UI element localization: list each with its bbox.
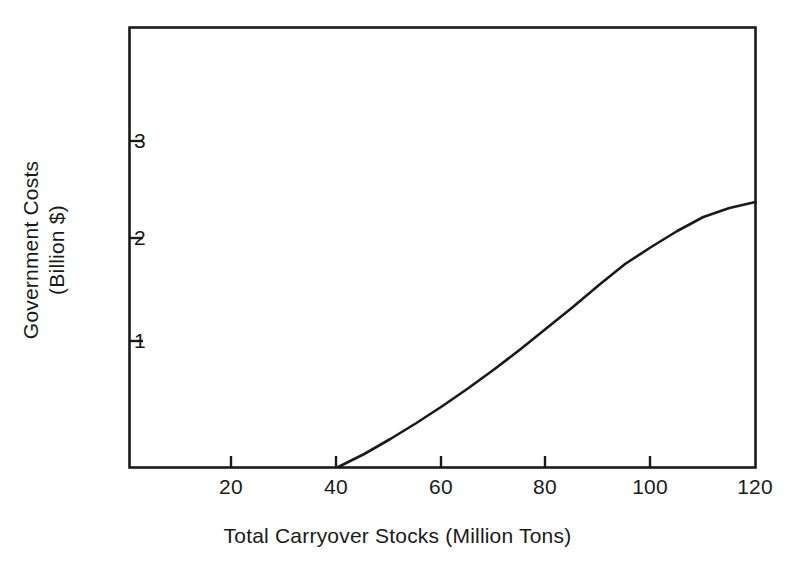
y-tick-label-1: 1 (134, 329, 146, 353)
plot-area-svg (0, 0, 795, 578)
x-axis-title: Total Carryover Stocks (Million Tons) (0, 524, 795, 548)
x-tick-label-40: 40 (324, 475, 348, 499)
x-tick-label-20: 20 (219, 475, 243, 499)
x-tick-label-100: 100 (632, 475, 668, 499)
plot-frame (130, 28, 756, 468)
y-axis-title-line-1: Government Costs (19, 161, 43, 339)
y-axis-title: Government Costs (Billion $) (16, 30, 72, 470)
x-tick-label-60: 60 (429, 475, 453, 499)
chart-figure: 20 40 60 80 100 120 1 2 3 Total Carryove… (0, 0, 795, 578)
x-tick-label-80: 80 (533, 475, 557, 499)
y-axis-title-line-2: (Billion $) (45, 205, 69, 295)
x-tick-label-120: 120 (737, 475, 773, 499)
y-tick-label-2: 2 (134, 226, 146, 250)
y-tick-label-3: 3 (134, 129, 146, 153)
